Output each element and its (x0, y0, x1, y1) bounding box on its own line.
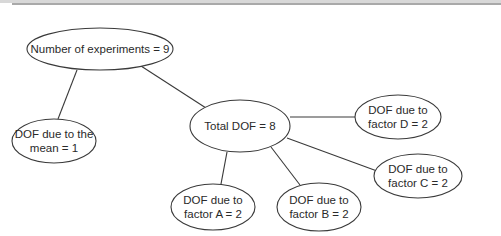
node-label: DOF due to (388, 163, 447, 175)
node-ellipse (12, 119, 96, 163)
edge-experiments-to-mean (58, 70, 77, 119)
node-label: Total DOF = 8 (204, 120, 275, 132)
edge-total-to-factor-c (287, 138, 377, 171)
node-factor-a: DOF due tofactor A = 2 (171, 184, 255, 230)
node-label: factor C = 2 (388, 177, 448, 189)
node-ellipse (171, 184, 255, 230)
node-label: factor B = 2 (289, 208, 348, 220)
node-factor-d: DOF due tofactor D = 2 (355, 95, 441, 139)
node-label: factor A = 2 (184, 208, 242, 220)
node-label: mean = 1 (30, 142, 78, 154)
edge-total-to-factor-a (221, 152, 227, 184)
node-label: DOF due to (183, 194, 242, 206)
nodes: Number of experiments = 9DOF due to them… (12, 28, 462, 231)
node-ellipse (355, 95, 441, 139)
edge-experiments-to-total (141, 66, 206, 108)
node-total: Total DOF = 8 (190, 100, 290, 152)
node-mean: DOF due to themean = 1 (12, 119, 96, 163)
node-label: DOF due to the (15, 128, 94, 140)
node-ellipse (277, 183, 361, 231)
node-ellipse (374, 154, 462, 198)
node-factor-b: DOF due tofactor B = 2 (277, 183, 361, 231)
node-label: factor D = 2 (368, 118, 428, 130)
node-label: Number of experiments = 9 (30, 43, 169, 55)
node-factor-c: DOF due tofactor C = 2 (374, 154, 462, 198)
edge-total-to-factor-b (271, 147, 300, 185)
node-experiments: Number of experiments = 9 (27, 28, 173, 70)
dof-tree-diagram: Number of experiments = 9DOF due to them… (0, 0, 501, 236)
node-label: DOF due to (289, 194, 348, 206)
node-label: DOF due to (368, 104, 427, 116)
cropped-caption-strip (0, 0, 501, 3)
